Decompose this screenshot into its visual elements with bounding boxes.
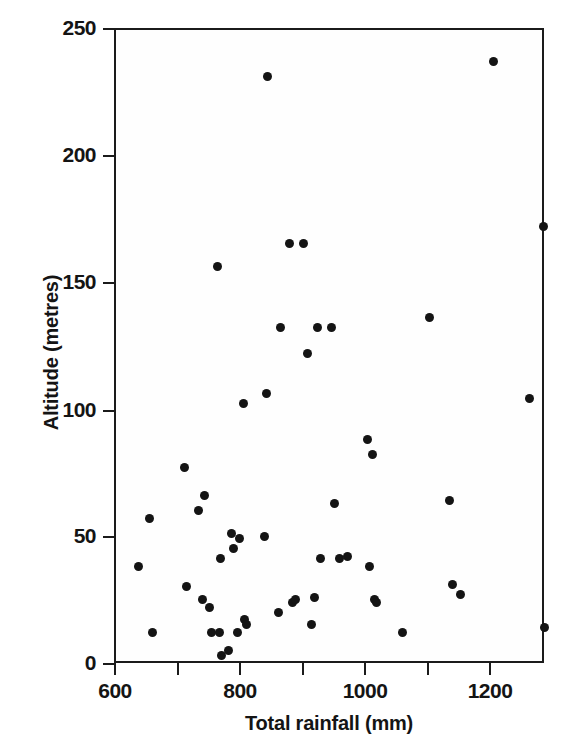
y-axis-tick [103, 282, 115, 284]
x-axis-tick-label: 1000 [320, 680, 410, 701]
x-axis-tick [364, 663, 366, 675]
x-axis-tick-label: 1200 [445, 680, 535, 701]
x-axis-tick [114, 663, 116, 675]
x-axis-title: Total rainfall (mm) [114, 712, 544, 735]
y-axis-tick-label: 250 [28, 17, 96, 38]
y-axis-tick [103, 28, 115, 30]
x-axis-tick [489, 663, 491, 675]
y-axis-title: Altitude (metres) [40, 173, 63, 533]
x-axis-tick [427, 663, 429, 675]
scatter-plot-figure: 250200150100500 60080010001200 Total rai… [0, 0, 563, 755]
x-axis-tick [239, 663, 241, 675]
x-axis-tick-label: 800 [195, 680, 285, 701]
y-axis-tick [103, 536, 115, 538]
x-axis-tick [302, 663, 304, 675]
y-axis-tick-label: 0 [28, 652, 96, 673]
x-axis-tick [177, 663, 179, 675]
y-axis-tick [103, 410, 115, 412]
y-axis: 250200150100500 [0, 0, 563, 755]
y-axis-tick-label: 200 [28, 144, 96, 165]
y-axis-tick [103, 155, 115, 157]
x-axis-tick-label: 600 [70, 680, 160, 701]
